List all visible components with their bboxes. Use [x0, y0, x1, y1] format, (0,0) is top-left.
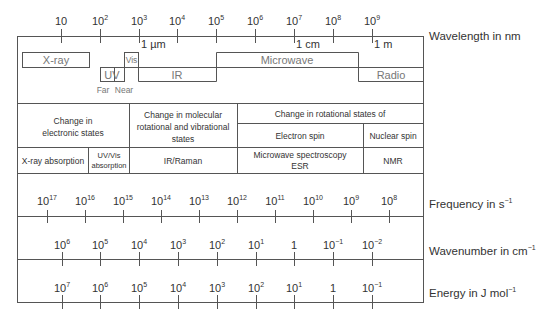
svg-text:101: 101 [286, 281, 302, 294]
energy-labels: 107 106 105 104 103 102 101 1 10−1 [54, 281, 382, 294]
molecular-states-cell-line1: Change in molecular [144, 110, 222, 120]
electron-spin-cell: Electron spin [275, 131, 324, 141]
svg-text:103: 103 [131, 14, 147, 27]
marker-1cm: 1 cm [296, 38, 320, 50]
svg-text:106: 106 [54, 238, 70, 251]
wavelength-unit-markers: 1 µm 1 cm 1 m [141, 38, 392, 50]
uvvis-absorption-cell-line1: UV/Vis [98, 151, 121, 160]
svg-text:108: 108 [325, 14, 341, 27]
marker-1m: 1 m [374, 38, 392, 50]
svg-text:1016: 1016 [75, 194, 95, 207]
ir-label: IR [172, 69, 183, 81]
vis-label: Vis [126, 55, 138, 65]
near-uv-label: Near [115, 85, 134, 95]
svg-text:103: 103 [170, 238, 186, 251]
energy-axis-label: Energy in J mol−1 [429, 286, 516, 299]
electronic-states-cell-line1: Change in [54, 116, 93, 126]
svg-text:10−1: 10−1 [323, 238, 343, 251]
nuclear-spin-cell: Nuclear spin [369, 131, 417, 141]
svg-text:10−1: 10−1 [362, 281, 382, 294]
microwave-spectroscopy-cell-line2: ESR [291, 161, 308, 171]
far-uv-label: Far [97, 85, 110, 95]
molecular-states-cell-line2: rotational and vibrational [137, 122, 230, 132]
wavelength-axis-label: Wavelength in nm [429, 30, 521, 42]
svg-text:1012: 1012 [227, 194, 247, 207]
rotational-states-header: Change in rotational states of [275, 109, 386, 119]
svg-text:104: 104 [169, 14, 185, 27]
molecular-states-cell-line3: states [172, 134, 195, 144]
svg-text:10: 10 [55, 15, 67, 27]
svg-text:106: 106 [92, 281, 108, 294]
svg-text:10−2: 10−2 [362, 238, 382, 251]
svg-text:102: 102 [248, 281, 264, 294]
wavenumber-labels: 106 105 104 103 102 101 1 10−1 10−2 [54, 238, 382, 251]
microwave-spectroscopy-cell-line1: Microwave spectroscopy [253, 150, 347, 160]
svg-text:1013: 1013 [189, 194, 209, 207]
svg-text:107: 107 [54, 281, 70, 294]
xray-absorption-cell: X-ray absorption [22, 156, 85, 166]
ir-raman-cell: IR/Raman [164, 156, 203, 166]
svg-text:105: 105 [92, 238, 108, 251]
svg-text:1017: 1017 [37, 194, 57, 207]
wavenumber-axis-label: Wavenumber in cm−1 [429, 244, 536, 257]
svg-text:109: 109 [364, 14, 380, 27]
radio-label: Radio [377, 69, 406, 81]
svg-text:104: 104 [170, 281, 186, 294]
transition-table: Change in electronic states Change in mo… [22, 109, 417, 171]
frequency-labels: 1017 1016 1015 1014 1013 1012 1011 1010 … [37, 194, 397, 207]
uvvis-absorption-cell-line2: absorption [91, 161, 126, 170]
diagram-frame [18, 37, 424, 303]
electronic-states-cell-line2: electronic states [42, 128, 103, 138]
svg-text:1010: 1010 [303, 194, 323, 207]
uv-label: UV [104, 69, 120, 81]
svg-text:102: 102 [209, 238, 225, 251]
microwave-label: Microwave [261, 54, 314, 66]
svg-text:101: 101 [248, 238, 264, 251]
svg-text:108: 108 [381, 194, 397, 207]
svg-text:104: 104 [131, 238, 147, 251]
svg-text:1015: 1015 [113, 194, 133, 207]
svg-text:103: 103 [209, 281, 225, 294]
svg-text:1: 1 [291, 239, 297, 251]
marker-1um: 1 µm [141, 38, 166, 50]
nmr-cell: NMR [383, 156, 402, 166]
svg-text:107: 107 [286, 14, 302, 27]
xray-label: X-ray [43, 54, 70, 66]
svg-text:1011: 1011 [265, 194, 285, 207]
svg-text:109: 109 [343, 194, 359, 207]
svg-text:105: 105 [131, 281, 147, 294]
frequency-axis-label: Frequency in s−1 [429, 197, 513, 210]
svg-text:106: 106 [247, 14, 263, 27]
svg-text:1014: 1014 [151, 194, 171, 207]
spectrum-diagram: 10 102 103 104 105 106 107 108 109 1 µm … [0, 0, 547, 325]
svg-text:102: 102 [92, 14, 108, 27]
svg-text:1: 1 [330, 282, 336, 294]
wavelength-labels: 10 102 103 104 105 106 107 108 109 [55, 14, 380, 27]
svg-text:105: 105 [208, 14, 224, 27]
